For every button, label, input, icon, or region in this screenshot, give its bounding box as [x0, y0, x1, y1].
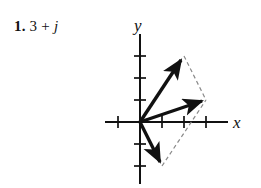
vectors-group [140, 60, 202, 162]
vector-diagram: x y [0, 0, 261, 188]
vector-diagram-svg: x y [0, 0, 261, 188]
axes-group [105, 34, 228, 184]
component-vector-b [140, 122, 160, 162]
y-axis-label: y [132, 16, 142, 35]
dashed-edge-from-vector-a [184, 56, 206, 100]
resultant-vector [140, 101, 202, 122]
component-vector-a [140, 60, 181, 122]
x-axis-label: x [232, 113, 241, 132]
dashed-edge-from-vector-b [162, 100, 206, 166]
figure-page: 1. 3 + j [0, 0, 261, 188]
